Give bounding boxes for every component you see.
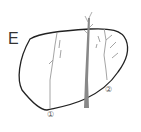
tree-trunk <box>84 18 90 108</box>
rock-outline <box>19 29 128 110</box>
marker-1: ① <box>47 110 54 119</box>
crack-line-2 <box>96 28 118 80</box>
panel-label: E <box>8 30 19 48</box>
crack-line-1 <box>49 33 61 108</box>
marker-2: ② <box>105 85 112 94</box>
rock-diagram <box>0 0 141 132</box>
